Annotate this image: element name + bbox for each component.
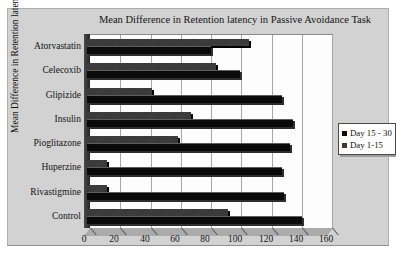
legend: Day 15 - 30Day 1-15 bbox=[338, 123, 396, 155]
bar-day-1-15-atorvastatin bbox=[87, 39, 249, 46]
x-tick-label-0: 0 bbox=[67, 234, 101, 244]
bar-day-15-30-rivastigmine bbox=[87, 192, 284, 200]
category-label-huperzine: Huperzine bbox=[11, 161, 81, 173]
x-tick-label-60: 60 bbox=[158, 234, 192, 244]
category-label-atorvastatin: Atorvastatin bbox=[11, 40, 81, 52]
bar-day-1-15-celecoxib bbox=[87, 63, 216, 70]
bar-day-15-30-pioglitazone bbox=[87, 143, 290, 151]
gridline-160 bbox=[332, 35, 333, 229]
bar-day-15-30-glipizide bbox=[87, 95, 282, 103]
legend-marker-day-1-15 bbox=[342, 143, 347, 148]
bar-day-15-30-atorvastatin bbox=[87, 46, 211, 54]
x-tick-label-160: 160 bbox=[309, 234, 343, 244]
x-tick-label-80: 80 bbox=[188, 234, 222, 244]
bar-day-15-30-celecoxib bbox=[87, 70, 240, 78]
legend-label-day-1-15: Day 1-15 bbox=[350, 140, 383, 150]
bar-day-1-15-rivastigmine bbox=[87, 185, 107, 192]
x-tick-label-120: 120 bbox=[249, 234, 283, 244]
bar-day-15-30-huperzine bbox=[87, 167, 282, 175]
legend-entry-day-1-15: Day 1-15 bbox=[342, 139, 392, 151]
bar-day-1-15-pioglitazone bbox=[87, 136, 178, 143]
bar-day-1-15-glipizide bbox=[87, 88, 152, 95]
category-label-control: Control bbox=[11, 210, 81, 222]
category-label-glipizide: Glipizide bbox=[11, 89, 81, 101]
gridline-140 bbox=[302, 35, 303, 229]
category-label-insulin: Insulin bbox=[11, 113, 81, 125]
category-label-celecoxib: Celecoxib bbox=[11, 64, 81, 76]
bar-day-15-30-insulin bbox=[87, 119, 293, 127]
bar-day-15-30-control bbox=[87, 216, 302, 224]
legend-marker-day-15-30 bbox=[342, 131, 347, 136]
category-label-pioglitazone: Pioglitazone bbox=[11, 137, 81, 149]
chart-title: Mean Difference in Retention latency in … bbox=[90, 14, 380, 25]
x-tick-label-40: 40 bbox=[128, 234, 162, 244]
chart-frame: Mean Difference in Retention latency in … bbox=[7, 8, 389, 246]
bar-day-1-15-insulin bbox=[87, 112, 191, 119]
bar-day-1-15-huperzine bbox=[87, 160, 107, 167]
x-tick-label-20: 20 bbox=[97, 234, 131, 244]
legend-label-day-15-30: Day 15 - 30 bbox=[350, 128, 392, 138]
legend-entry-day-15-30: Day 15 - 30 bbox=[342, 127, 392, 139]
x-tick-label-100: 100 bbox=[218, 234, 252, 244]
x-tick-label-140: 140 bbox=[279, 234, 313, 244]
category-label-rivastigmine: Rivastigmine bbox=[11, 186, 81, 198]
bar-day-1-15-control bbox=[87, 209, 228, 216]
